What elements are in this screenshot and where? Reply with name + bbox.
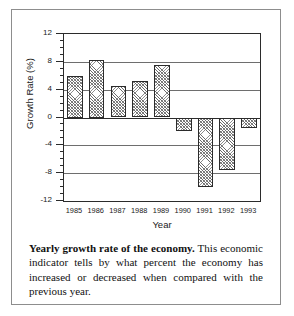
bar-slot bbox=[108, 34, 130, 201]
y-tick-label: 8 bbox=[26, 57, 52, 65]
bar[interactable] bbox=[176, 118, 192, 132]
bar-series bbox=[64, 34, 260, 201]
bar[interactable] bbox=[67, 76, 83, 118]
y-axis-title: Growth Rate (%) bbox=[24, 39, 35, 149]
bar-slot bbox=[173, 34, 195, 201]
x-tick-label: 1993 bbox=[235, 206, 261, 215]
plot-area bbox=[63, 33, 261, 202]
bar[interactable] bbox=[111, 86, 127, 117]
bar[interactable] bbox=[132, 81, 148, 118]
x-axis-title: Year bbox=[63, 219, 261, 230]
bar-slot bbox=[195, 34, 217, 201]
bar-slot bbox=[129, 34, 151, 201]
y-tick-label: 12 bbox=[26, 29, 52, 37]
y-tick-label: -8 bbox=[26, 168, 52, 176]
y-tick-label: 4 bbox=[26, 85, 52, 93]
y-tick-label: -4 bbox=[26, 140, 52, 148]
x-axis-tick-labels: 198519861987198819891990199119921993 bbox=[63, 206, 261, 218]
bar-chart: Growth Rate (%) 12840-4-8-12 19851986198… bbox=[12, 10, 280, 222]
bar[interactable] bbox=[154, 65, 170, 118]
bar-slot bbox=[151, 34, 173, 201]
figure-panel: Growth Rate (%) 12840-4-8-12 19851986198… bbox=[11, 9, 281, 305]
bar[interactable] bbox=[198, 118, 214, 188]
bar-slot bbox=[86, 34, 108, 201]
bar-slot bbox=[216, 34, 238, 201]
figure-caption: Yearly growth rate of the economy. This … bbox=[29, 241, 263, 299]
y-tick-label: -12 bbox=[26, 196, 52, 204]
y-tick-label: 0 bbox=[26, 113, 52, 121]
caption-lead: Yearly growth rate of the economy. bbox=[29, 242, 195, 254]
bar-slot bbox=[64, 34, 86, 201]
bar[interactable] bbox=[89, 60, 105, 118]
bar-slot bbox=[238, 34, 260, 201]
bar[interactable] bbox=[241, 118, 257, 128]
bar[interactable] bbox=[219, 118, 235, 170]
